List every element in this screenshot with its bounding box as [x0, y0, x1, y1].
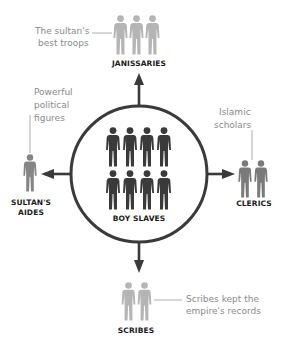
- aides-figures: [23, 154, 36, 191]
- note-clerics-line2: scholars: [214, 119, 251, 131]
- label-boy-slaves: BOY SLAVES: [104, 214, 174, 224]
- note-aides-line3: figures: [34, 112, 65, 124]
- arrow-right-head: [222, 169, 235, 179]
- note-janissaries-line1: The sultan's: [35, 25, 89, 37]
- janissaries-figures: [114, 15, 160, 54]
- scribes-figures: [122, 282, 152, 320]
- arrow-up-head: [134, 73, 144, 85]
- label-aides-line2: AIDES: [0, 208, 62, 218]
- note-aides-line2: political: [34, 99, 69, 111]
- note-scribes-line1: Scribes kept the: [186, 293, 259, 305]
- label-janissaries: JANISSARIES: [104, 59, 174, 69]
- label-clerics: CLERICS: [226, 199, 282, 209]
- arrow-left-head: [41, 169, 54, 179]
- label-scribes: SCRIBES: [106, 326, 166, 336]
- note-clerics-line1: Islamic: [219, 106, 251, 118]
- note-janissaries-line2: best troops: [38, 37, 89, 49]
- note-scribes-line2: empire's records: [186, 305, 261, 317]
- clerics-figures: [238, 160, 267, 197]
- label-aides-line1: SULTAN'S: [0, 198, 62, 208]
- arrow-down-head: [134, 260, 144, 273]
- note-aides-line1: Powerful: [34, 86, 73, 98]
